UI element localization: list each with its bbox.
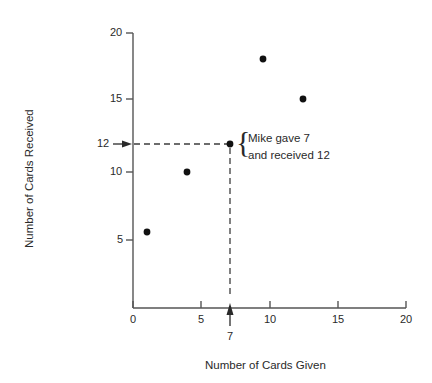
plot-canvas	[0, 0, 432, 383]
x-tick-label-10: 10	[264, 314, 276, 325]
x-axis-title: Number of Cards Given	[205, 360, 326, 372]
y-tick-label-20: 20	[110, 27, 122, 38]
x-tick-label-0: 0	[130, 314, 136, 325]
y-tick-label-10: 10	[110, 166, 122, 177]
y-tick-label-5: 5	[117, 234, 123, 245]
x-guide-arrowhead-icon	[227, 303, 234, 315]
data-point	[184, 169, 191, 176]
y-tick-label-12: 12	[97, 138, 109, 149]
x-tick-label-5: 5	[198, 314, 204, 325]
callout-line-1: Mike gave 7	[248, 133, 310, 145]
scatter-plot-figure: 20 15 12 10 5 0 5 10 15 20 7 Number of C…	[0, 0, 432, 383]
data-point	[260, 56, 267, 63]
data-point	[300, 96, 307, 103]
y-guide-arrowhead-icon	[122, 141, 132, 148]
y-tick-label-15: 15	[110, 93, 122, 104]
data-point-highlighted	[227, 141, 234, 148]
callout-line-2: and received 12	[248, 150, 330, 162]
x-callout-label-7: 7	[227, 331, 233, 342]
y-axis-title: Number of Cards Received	[24, 109, 36, 248]
x-tick-label-15: 15	[332, 314, 344, 325]
x-tick-label-20: 20	[400, 314, 412, 325]
data-point	[144, 229, 151, 236]
